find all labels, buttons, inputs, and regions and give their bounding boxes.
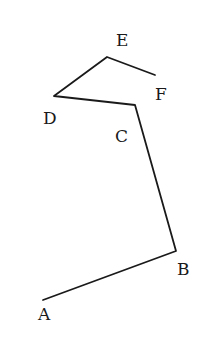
label-f: F [155, 84, 167, 104]
label-c: C [115, 126, 128, 146]
label-b: B [177, 259, 190, 279]
label-d: D [43, 108, 57, 128]
diagram-canvas: A B C D E F [0, 0, 197, 350]
label-a: A [37, 304, 51, 324]
label-e: E [116, 30, 128, 50]
